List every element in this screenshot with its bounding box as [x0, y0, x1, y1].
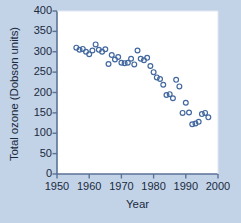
ozone-scatter-figure: 050100150200250300350400 195019601970198… [0, 0, 241, 223]
caption-fragment [0, 216, 241, 223]
x-axis-title: Year [57, 198, 218, 210]
x-tick-label: 2000 [198, 181, 238, 192]
x-axis-tick-labels: 195019601970198019902000 [0, 0, 241, 223]
y-axis-title: Total ozone (Dobson units) [8, 6, 20, 182]
